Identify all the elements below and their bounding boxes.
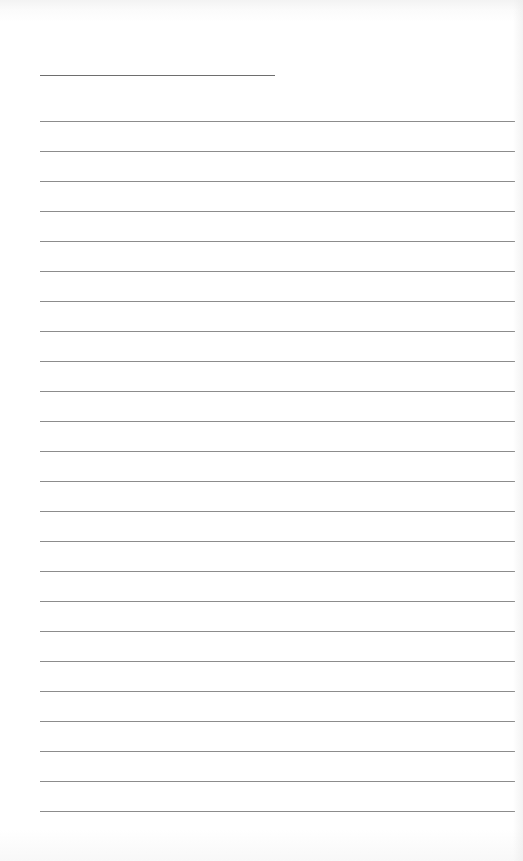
ruled-line[interactable]	[40, 211, 515, 212]
ruled-line[interactable]	[40, 751, 515, 752]
ruled-line[interactable]	[40, 781, 515, 782]
ruled-lines	[40, 0, 515, 861]
ruled-line[interactable]	[40, 451, 515, 452]
ruled-line[interactable]	[40, 241, 515, 242]
ruled-line[interactable]	[40, 691, 515, 692]
ruled-line[interactable]	[40, 421, 515, 422]
ruled-line[interactable]	[40, 181, 515, 182]
ruled-line[interactable]	[40, 391, 515, 392]
ruled-line[interactable]	[40, 151, 515, 152]
ruled-line[interactable]	[40, 721, 515, 722]
ruled-line[interactable]	[40, 301, 515, 302]
ruled-line[interactable]	[40, 121, 515, 122]
ruled-line[interactable]	[40, 361, 515, 362]
ruled-line[interactable]	[40, 571, 515, 572]
ruled-line[interactable]	[40, 271, 515, 272]
ruled-line[interactable]	[40, 511, 515, 512]
ruled-line[interactable]	[40, 811, 515, 812]
ruled-line[interactable]	[40, 631, 515, 632]
ruled-line[interactable]	[40, 481, 515, 482]
ruled-line[interactable]	[40, 601, 515, 602]
ruled-line[interactable]	[40, 331, 515, 332]
ruled-line[interactable]	[40, 661, 515, 662]
ruled-line[interactable]	[40, 541, 515, 542]
lined-page	[0, 0, 523, 861]
